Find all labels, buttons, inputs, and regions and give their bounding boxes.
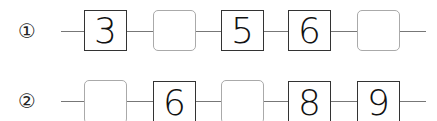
number-box: 8: [288, 81, 331, 121]
number-box: 6: [288, 10, 331, 51]
blank-answer-box[interactable]: [84, 80, 127, 121]
row-number-label: ①: [14, 18, 40, 44]
number-box: 3: [84, 10, 127, 51]
number-box: 6: [153, 81, 196, 121]
blank-answer-box[interactable]: [221, 80, 264, 121]
sequence-row-1: ① 3 5 6: [0, 10, 437, 54]
blank-answer-box[interactable]: [153, 10, 196, 51]
row-number-label: ②: [14, 88, 40, 114]
number-box: 5: [221, 10, 264, 51]
number-box: 9: [357, 81, 400, 121]
blank-answer-box[interactable]: [357, 10, 400, 51]
sequence-row-2: ② 6 8 9: [0, 80, 437, 121]
